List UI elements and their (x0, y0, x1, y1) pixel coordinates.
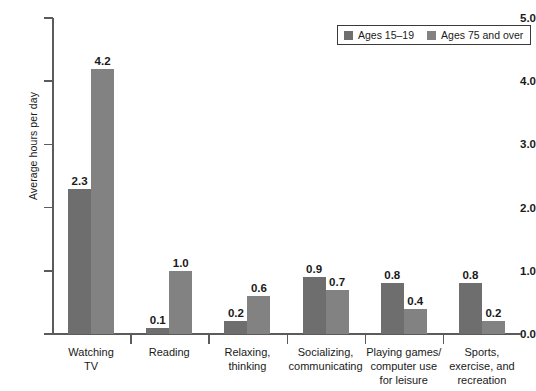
bar-chart: Average hours per day 0.01.02.03.04.05.0… (0, 0, 536, 391)
legend-label-ages-75-over: Ages 75 and over (441, 29, 523, 41)
x-axis-label-line: computer use (365, 359, 443, 373)
bar[interactable] (247, 296, 270, 334)
bar-value-label: 0.2 (473, 307, 513, 319)
legend-item-ages-75-over: Ages 75 and over (427, 29, 523, 41)
bar-value-label: 0.4 (395, 295, 435, 307)
bar-group: 2.34.2 (68, 18, 114, 334)
legend-item-ages-15-19: Ages 15–19 (344, 29, 414, 41)
bar-value-label: 0.8 (450, 269, 490, 281)
x-axis-label: Socializing,communicating (287, 345, 365, 373)
bar[interactable] (169, 271, 192, 334)
bar-value-label: 0.9 (294, 263, 334, 275)
x-axis-label-line: exercise, and (443, 359, 521, 373)
chart-legend: Ages 15–19 Ages 75 and over (337, 25, 531, 45)
bar-group: 0.20.6 (224, 18, 270, 334)
x-axis-separator (130, 334, 131, 344)
x-axis-label-line: Watching (52, 345, 130, 359)
bar-group: 0.80.4 (381, 18, 427, 334)
x-axis-label: Sports,exercise, andrecreation (443, 345, 521, 387)
bar-group: 0.80.2 (459, 18, 505, 334)
bar[interactable] (326, 290, 349, 334)
bar-value-label: 0.6 (239, 282, 279, 294)
bar[interactable] (68, 189, 91, 334)
bar-value-label: 0.8 (372, 269, 412, 281)
bar[interactable] (381, 283, 404, 334)
x-axis-label-line: Reading (130, 345, 208, 359)
x-axis-label-line: Relaxing, (208, 345, 286, 359)
bar-value-label: 0.7 (317, 276, 357, 288)
bar[interactable] (91, 69, 114, 334)
x-axis-label-line: thinking (208, 359, 286, 373)
x-axis-label: Relaxing,thinking (208, 345, 286, 373)
y-axis-title: Average hours per day (27, 51, 39, 241)
x-axis-label-line: TV (52, 359, 130, 373)
bar[interactable] (224, 321, 247, 334)
x-axis-label-line: Sports, (443, 345, 521, 359)
bar-value-label: 1.0 (161, 257, 201, 269)
x-axis-label: Reading (130, 345, 208, 359)
bar-group: 0.11.0 (146, 18, 192, 334)
x-axis-label-line: recreation (443, 373, 521, 387)
bar[interactable] (404, 309, 427, 334)
x-axis-separator (208, 334, 209, 344)
x-axis-label-line: for leisure (365, 373, 443, 387)
bar-group: 0.90.7 (303, 18, 349, 334)
x-axis-separator (365, 334, 366, 344)
legend-label-ages-15-19: Ages 15–19 (358, 29, 414, 41)
legend-swatch-ages-75-over (427, 31, 436, 40)
x-axis-label-line: communicating (287, 359, 365, 373)
bar-value-label: 4.2 (83, 55, 123, 67)
bar[interactable] (146, 328, 169, 334)
bar[interactable] (482, 321, 505, 334)
plot-area: 2.34.20.11.00.20.60.90.70.80.40.80.2 (52, 18, 521, 334)
x-axis-label: WatchingTV (52, 345, 130, 373)
x-axis-separator (443, 334, 444, 344)
x-axis-separator (287, 334, 288, 344)
x-axis-label-line: Playing games/ (365, 345, 443, 359)
legend-swatch-ages-15-19 (344, 31, 353, 40)
x-axis-label-line: Socializing, (287, 345, 365, 359)
x-axis-label: Playing games/computer usefor leisure (365, 345, 443, 387)
